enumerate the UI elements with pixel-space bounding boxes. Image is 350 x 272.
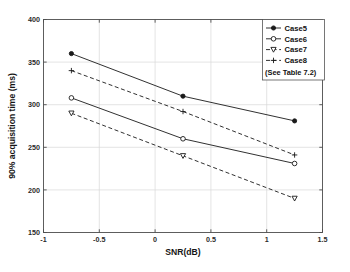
y-tick-label: 250: [28, 143, 40, 152]
series-marker-case5: [293, 119, 297, 123]
legend-label-case8: Case8: [285, 56, 307, 65]
legend-label-case7: Case7: [285, 45, 307, 54]
chart-canvas: -1-0.500.511.5150200250300350400 SNR(dB)…: [0, 0, 350, 272]
x-tick-label: 0.5: [206, 235, 216, 244]
chart-figure: -1-0.500.511.5150200250300350400 SNR(dB)…: [0, 0, 350, 272]
x-tick-label: -1: [40, 235, 46, 244]
y-tick-label: 300: [28, 100, 40, 109]
legend-label-case6: Case6: [285, 35, 307, 44]
y-tick-label: 200: [28, 186, 40, 195]
legend-marker-case5: [271, 26, 275, 30]
x-tick-label: 1.5: [318, 235, 328, 244]
y-tick-label: 150: [28, 228, 40, 237]
series-marker-case6: [292, 161, 297, 166]
series-marker-case5: [69, 51, 73, 55]
x-axis-title: SNR(dB): [165, 247, 200, 257]
series-marker-case5: [181, 94, 185, 98]
legend-marker-case6: [271, 37, 276, 42]
legend-label-case5: Case5: [285, 24, 308, 33]
legend-note: (See Table 7.2): [265, 68, 317, 77]
chart-legend: Case5Case6Case7Case8(See Table 7.2): [263, 20, 325, 81]
series-marker-case7: [292, 196, 297, 201]
series-marker-case6: [69, 96, 74, 101]
x-tick-label: -0.5: [93, 235, 105, 244]
y-tick-label: 400: [28, 15, 40, 24]
y-axis-title: 90% acquisition time (ms): [7, 73, 17, 179]
series-marker-case6: [181, 136, 186, 141]
x-tick-label: 1: [265, 235, 269, 244]
y-tick-label: 350: [28, 58, 40, 67]
x-tick-label: 0: [153, 235, 157, 244]
